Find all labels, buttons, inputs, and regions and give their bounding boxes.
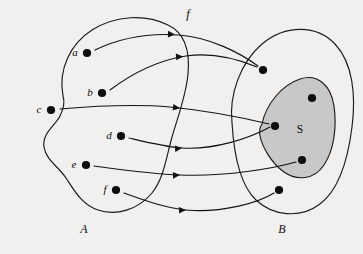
element-label-f: f (103, 183, 108, 195)
element-label-d: d (106, 129, 112, 141)
function-mapping-diagram: abcdef f A B S (0, 0, 363, 254)
element-label-b: b (87, 86, 93, 98)
arrow-layer (60, 31, 296, 214)
arrow-head (176, 53, 183, 60)
element-dot-e (82, 161, 90, 169)
subset-s-label: S (297, 123, 303, 135)
map-arrow-c-to-b2 (60, 104, 269, 124)
element-dot-f (112, 186, 120, 194)
arrow-curve (110, 55, 257, 90)
codomain-dot-b5 (275, 186, 283, 194)
diagram-canvas: abcdef f A B S (0, 0, 363, 254)
arrow-head (173, 172, 180, 179)
codomain-dot-b4 (298, 156, 306, 164)
element-dot-c (47, 106, 55, 114)
set-a-outline (44, 18, 189, 213)
set-a-label: A (79, 222, 88, 236)
arrow-head (168, 31, 175, 38)
element-dot-a (83, 49, 91, 57)
codomain-dot-b2 (271, 122, 279, 130)
codomain-dot-b1 (259, 66, 267, 74)
element-label-a: a (72, 46, 78, 58)
map-arrow-a-to-b1 (95, 31, 258, 66)
arrow-curve (129, 127, 270, 148)
arrow-head (179, 207, 186, 214)
codomain-dot-b3 (308, 94, 316, 102)
map-arrow-b-to-b1 (110, 53, 257, 90)
arrow-head (173, 104, 181, 111)
element-dot-b (98, 89, 106, 97)
element-dot-d (117, 132, 125, 140)
arrow-curve (94, 162, 296, 175)
map-arrow-e-to-b4 (94, 162, 296, 179)
element-label-c: c (37, 103, 42, 115)
arrow-curve (95, 35, 258, 66)
map-arrow-f-to-b5 (124, 193, 274, 214)
arrow-curve (60, 106, 269, 124)
arrow-head (175, 145, 183, 152)
map-arrow-d-to-b2 (129, 127, 270, 152)
element-label-layer: abcdef (37, 46, 113, 195)
function-label: f (186, 7, 191, 21)
element-label-e: e (72, 158, 77, 170)
set-b-label: B (278, 222, 286, 236)
